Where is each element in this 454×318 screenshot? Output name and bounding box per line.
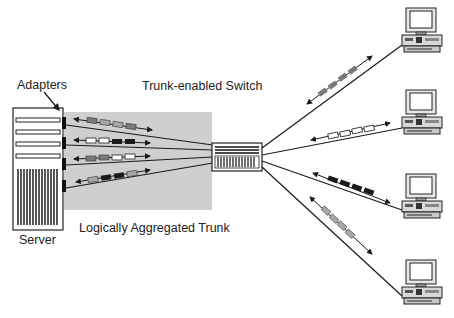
- trunk-enabled-switch: [212, 143, 262, 171]
- switch-label: Trunk-enabled Switch: [142, 79, 262, 93]
- adapters-pointer: [44, 92, 59, 110]
- adapters-label: Adapters: [17, 78, 67, 92]
- workstation-2: [402, 90, 442, 134]
- workstation-1: [402, 8, 442, 52]
- server-label: Server: [19, 233, 56, 247]
- trunk-label: Logically Aggregated Trunk: [79, 221, 230, 235]
- workstation-3: [402, 174, 442, 218]
- server: [13, 108, 66, 230]
- client-packets: [307, 56, 390, 254]
- workstation-4: [402, 260, 442, 304]
- network-diagram: [0, 0, 454, 318]
